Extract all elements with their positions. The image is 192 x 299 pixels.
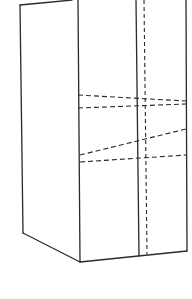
bottom-left-edge	[23, 233, 80, 262]
fold-line-3	[80, 129, 186, 155]
bottom-front-edge	[80, 251, 187, 262]
right-edge	[186, 0, 187, 251]
box-diagram	[0, 0, 192, 299]
box-drawing	[0, 0, 192, 299]
vertical-fold-line	[144, 0, 147, 254]
fold-line-4	[80, 155, 186, 162]
fold-line-2	[78, 104, 186, 108]
left-side-edge	[20, 5, 23, 233]
top-left-edge	[20, 0, 72, 5]
center-divider-edge	[136, 0, 139, 256]
front-left-edge	[78, 0, 80, 262]
fold-line-1	[78, 95, 186, 101]
